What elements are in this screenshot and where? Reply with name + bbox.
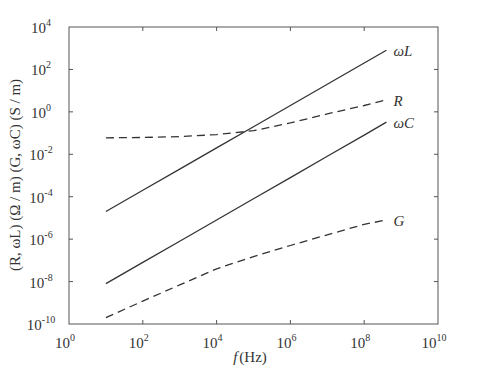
series-line (106, 100, 387, 138)
x-axis-title: f(Hz) (233, 349, 267, 366)
series-label: ωL (393, 43, 412, 59)
y-tick-label: 10-2 (29, 144, 52, 163)
x-tick-label: 100 (55, 332, 75, 351)
y-tick-label: 10-6 (29, 229, 52, 248)
x-tick-label: 108 (350, 332, 370, 351)
y-axis-tick-labels: 10410210010-210-410-610-810-10 (27, 17, 55, 333)
y-tick-label: 10-8 (29, 272, 52, 291)
series-labels: ωLRωCG (392, 43, 415, 229)
y-tick-label: 100 (31, 102, 51, 121)
x-tick-label: 102 (129, 332, 149, 351)
plot-area (69, 27, 438, 324)
x-tick-label: 104 (203, 332, 223, 351)
series-label: R (392, 93, 402, 109)
y-tick-label: 102 (31, 59, 51, 78)
series-line (106, 122, 387, 284)
series-label: ωC (393, 115, 415, 131)
y-axis-title: (R, ωL) (Ω / m) (G, ωC) (S / m) (7, 79, 24, 271)
chart: 1001021041061081010 10410210010-210-410-… (0, 0, 479, 383)
axis-ticks (69, 27, 438, 324)
y-tick-label: 104 (31, 17, 51, 36)
series-lines (106, 50, 387, 317)
series-line (106, 220, 387, 318)
x-tick-label: 106 (276, 332, 296, 351)
y-tick-label: 10-10 (27, 314, 55, 333)
y-tick-label: 10-4 (29, 187, 52, 206)
x-tick-label: 1010 (422, 332, 447, 351)
series-line (106, 50, 387, 211)
series-label: G (393, 213, 404, 229)
